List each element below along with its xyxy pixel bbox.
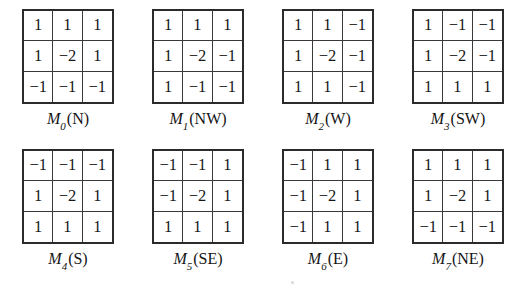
- matrix-cell: −1: [343, 41, 372, 71]
- matrix-cell: −1: [473, 212, 502, 242]
- matrix-cell: −1: [53, 151, 82, 181]
- matrix-cell: −2: [53, 41, 82, 71]
- matrix-cell: 1: [473, 181, 502, 211]
- matrix-symbol: M: [432, 250, 445, 267]
- matrix-cell: −1: [284, 181, 313, 211]
- matrix-index: 7: [445, 260, 451, 272]
- matrix-cell: −1: [284, 212, 313, 242]
- matrix-block-m3: 1−1−11−2−1111M3(SW): [412, 9, 504, 130]
- matrix-cell: 1: [24, 212, 53, 242]
- matrix-row-bottom: −1−1−11−21111M4(S)−1−11−1−21111M5(SE)−11…: [22, 149, 504, 270]
- matrix-index: 6: [321, 260, 327, 272]
- matrix-cell: 1: [284, 11, 313, 41]
- matrix-cell: 1: [53, 212, 82, 242]
- matrix-cell: 1: [343, 181, 372, 211]
- matrix-cell: 1: [443, 151, 472, 181]
- matrix-direction: (S): [68, 250, 88, 267]
- matrix-cell: 1: [343, 151, 372, 181]
- matrix-grid-m5: −1−11−1−21111: [152, 149, 244, 244]
- matrix-cell: −2: [313, 181, 342, 211]
- matrix-cell: 1: [414, 181, 443, 211]
- matrix-symbol: M: [47, 110, 60, 127]
- matrix-cell: 1: [83, 41, 112, 71]
- matrix-symbol: M: [308, 250, 321, 267]
- matrix-cell: 1: [343, 212, 372, 242]
- matrix-cell: 1: [154, 11, 183, 41]
- matrix-cell: 1: [53, 11, 82, 41]
- matrix-index: 2: [319, 120, 325, 132]
- matrix-cell: 1: [154, 72, 183, 102]
- matrix-cell: 1: [313, 11, 342, 41]
- matrix-cell: −2: [183, 181, 212, 211]
- matrix-cell: 1: [443, 72, 472, 102]
- matrix-symbol: M: [431, 110, 444, 127]
- matrix-cell: −1: [443, 11, 472, 41]
- matrix-cell: 1: [473, 72, 502, 102]
- matrix-figure: 1111−21−1−1−1M0(N)1111−2−11−1−1M1(NW)11−…: [0, 0, 528, 294]
- matrix-direction: (NE): [452, 250, 484, 267]
- matrix-label-m2: M2(W): [282, 110, 374, 130]
- matrix-direction: (N): [67, 110, 89, 127]
- matrix-cell: 1: [213, 11, 242, 41]
- matrix-grid-m6: −111−1−21−111: [282, 149, 374, 244]
- matrix-cell: −2: [183, 41, 212, 71]
- matrix-grid-m2: 11−11−2−111−1: [282, 9, 374, 104]
- matrix-cell: −1: [473, 41, 502, 71]
- matrix-label-m4: M4(S): [22, 250, 114, 270]
- matrix-cell: 1: [24, 11, 53, 41]
- matrix-cell: −1: [83, 72, 112, 102]
- matrix-symbol: M: [305, 110, 318, 127]
- matrix-cell: 1: [414, 72, 443, 102]
- matrix-symbol: M: [48, 250, 61, 267]
- matrix-label-m3: M3(SW): [412, 110, 504, 130]
- matrix-row-top: 1111−21−1−1−1M0(N)1111−2−11−1−1M1(NW)11−…: [22, 9, 504, 130]
- matrix-cell: −1: [24, 72, 53, 102]
- matrix-cell: 1: [83, 181, 112, 211]
- matrix-cell: −1: [154, 151, 183, 181]
- matrix-cell: 1: [213, 212, 242, 242]
- matrix-grid-m3: 1−1−11−2−1111: [412, 9, 504, 104]
- matrix-index: 1: [183, 120, 189, 132]
- matrix-index: 5: [187, 260, 193, 272]
- matrix-cell: −2: [53, 181, 82, 211]
- matrix-direction: (SW): [451, 110, 486, 127]
- matrix-grid-m7: 1111−21−1−1−1: [412, 149, 504, 244]
- matrix-direction: (NW): [189, 110, 226, 127]
- matrix-cell: −2: [443, 181, 472, 211]
- matrix-cell: 1: [313, 212, 342, 242]
- matrix-cell: −1: [284, 151, 313, 181]
- matrix-index: 0: [60, 120, 66, 132]
- matrix-cell: −1: [83, 151, 112, 181]
- matrix-index: 4: [62, 260, 68, 272]
- matrix-cell: −1: [473, 11, 502, 41]
- matrix-cell: 1: [414, 151, 443, 181]
- matrix-symbol: M: [173, 250, 186, 267]
- matrix-direction: (SE): [193, 250, 222, 267]
- matrix-cell: 1: [154, 41, 183, 71]
- matrix-index: 3: [444, 120, 450, 132]
- matrix-cell: −1: [414, 212, 443, 242]
- matrix-block-m7: 1111−21−1−1−1M7(NE): [412, 149, 504, 270]
- matrix-block-m6: −111−1−21−111M6(E): [282, 149, 374, 270]
- matrix-cell: 1: [24, 41, 53, 71]
- matrix-label-m5: M5(SE): [152, 250, 244, 270]
- matrix-cell: −1: [443, 212, 472, 242]
- matrix-cell: 1: [183, 11, 212, 41]
- matrix-cell: 1: [83, 11, 112, 41]
- matrix-cell: 1: [284, 41, 313, 71]
- matrix-grid-m1: 1111−2−11−1−1: [152, 9, 244, 104]
- matrix-cell: 1: [154, 212, 183, 242]
- matrix-cell: −1: [213, 41, 242, 71]
- matrix-label-m0: M0(N): [22, 110, 114, 130]
- matrix-direction: (W): [325, 110, 351, 127]
- matrix-cell: −1: [213, 72, 242, 102]
- matrix-symbol: M: [169, 110, 182, 127]
- matrix-cell: −1: [183, 72, 212, 102]
- matrix-block-m0: 1111−21−1−1−1M0(N): [22, 9, 114, 130]
- scan-artifact-speck: [291, 281, 294, 284]
- matrix-cell: 1: [213, 151, 242, 181]
- matrix-cell: −1: [154, 181, 183, 211]
- matrix-cell: 1: [473, 151, 502, 181]
- matrix-direction: (E): [328, 250, 348, 267]
- matrix-cell: 1: [284, 72, 313, 102]
